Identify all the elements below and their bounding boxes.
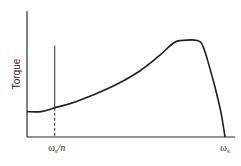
x-tick-label-omega-s-over-n: ωs/n bbox=[48, 142, 65, 155]
torque-speed-diagram: Torque ωs/nωs bbox=[0, 0, 241, 166]
x-tick-label-omega-s: ωs bbox=[220, 142, 230, 155]
torque-speed-curve bbox=[27, 40, 225, 137]
y-axis-label: Torque bbox=[11, 58, 22, 89]
